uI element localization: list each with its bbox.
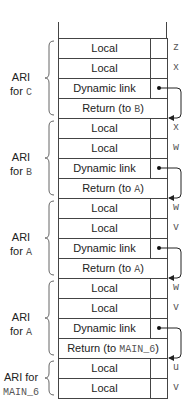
dynamic-link-arrows — [159, 88, 181, 358]
brace-icons — [45, 41, 54, 395]
diagram-overlay — [0, 0, 194, 416]
link-dot-icons — [157, 86, 161, 330]
